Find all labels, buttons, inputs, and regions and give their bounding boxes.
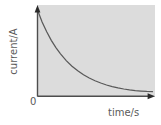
- x-axis-arrow-icon: [148, 93, 155, 99]
- decay-curve: [38, 10, 153, 92]
- graph-figure: current/A time/s 0: [0, 0, 161, 125]
- y-axis-label: current/A: [8, 18, 19, 86]
- x-axis-label: time/s: [108, 107, 139, 118]
- y-axis-arrow-icon: [35, 5, 41, 12]
- origin-label: 0: [30, 96, 36, 107]
